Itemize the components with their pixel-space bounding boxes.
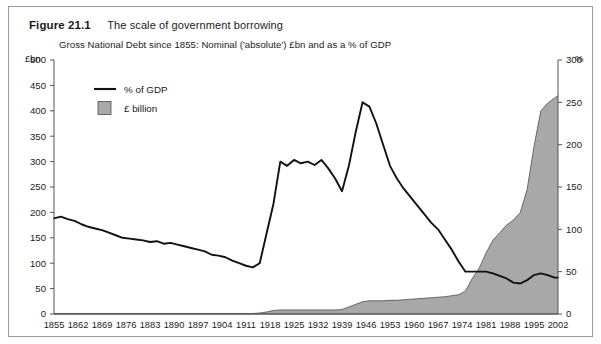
figure-frame: Figure 21.1 The scale of government borr…	[8, 6, 593, 337]
x-tick-label: 1862	[68, 320, 89, 330]
y2-tick-label: 50	[566, 266, 577, 277]
x-tick-label: 1967	[428, 320, 449, 330]
y-tick-label: 200	[30, 207, 46, 218]
x-tick-label: 1995	[524, 320, 545, 330]
y-tick-label: 250	[30, 181, 46, 192]
x-tick-label: 1974	[452, 320, 473, 330]
y-tick-label: 350	[30, 131, 46, 142]
x-tick-label: 1932	[308, 320, 329, 330]
y-tick-label: 500	[30, 54, 46, 65]
y2-tick-label: 250	[566, 97, 582, 108]
y-tick-label: 100	[30, 258, 46, 269]
y2-tick-label: 150	[566, 181, 582, 192]
x-tick-label: 1953	[380, 320, 401, 330]
line-series-pct-gdp	[54, 102, 558, 283]
x-tick-label: 1925	[284, 320, 305, 330]
y-tick-label: 300	[30, 156, 46, 167]
x-tick-label: 1960	[404, 320, 425, 330]
x-tick-label: 1883	[140, 320, 161, 330]
chart-legend: % of GDP£ billion	[94, 84, 168, 115]
area-series-gbp	[54, 96, 558, 314]
x-tick-label: 1855	[44, 320, 65, 330]
y-tick-label: 400	[30, 105, 46, 116]
x-tick-label: 1918	[260, 320, 281, 330]
y2-tick-label: 0	[566, 308, 571, 319]
y2-tick-label: 100	[566, 224, 582, 235]
legend-square-swatch	[98, 102, 111, 115]
chart-plot: 0501001502002503003504004505000501001502…	[9, 7, 594, 338]
x-tick-label: 1939	[332, 320, 353, 330]
y-tick-label: 0	[41, 308, 46, 319]
y-tick-label: 450	[30, 80, 46, 91]
legend-label: % of GDP	[124, 84, 168, 95]
legend-label: £ billion	[124, 103, 157, 114]
x-tick-label: 1897	[188, 320, 209, 330]
x-tick-label: 1890	[164, 320, 185, 330]
x-tick-label: 1869	[92, 320, 113, 330]
x-tick-label: 1911	[236, 320, 256, 330]
x-tick-label: 1988	[500, 320, 521, 330]
y2-tick-label: 200	[566, 139, 582, 150]
y-tick-label: 50	[35, 283, 46, 294]
x-tick-label: 1904	[212, 320, 233, 330]
y2-tick-label: 300	[566, 54, 582, 65]
x-tick-label: 1946	[356, 320, 377, 330]
x-tick-label: 1876	[116, 320, 137, 330]
x-tick-label: 1981	[476, 320, 497, 330]
x-tick-label: 2002	[548, 320, 569, 330]
y-tick-label: 150	[30, 232, 46, 243]
